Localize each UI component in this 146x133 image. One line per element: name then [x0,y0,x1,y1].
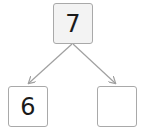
arrow-to-right-part [73,44,115,83]
part-box-left: 6 [8,86,48,127]
whole-value: 7 [65,12,80,36]
whole-box: 7 [53,3,93,44]
arrow-to-left-part [29,44,72,83]
part-box-right[interactable] [97,86,137,127]
part-left-value: 6 [20,95,35,119]
